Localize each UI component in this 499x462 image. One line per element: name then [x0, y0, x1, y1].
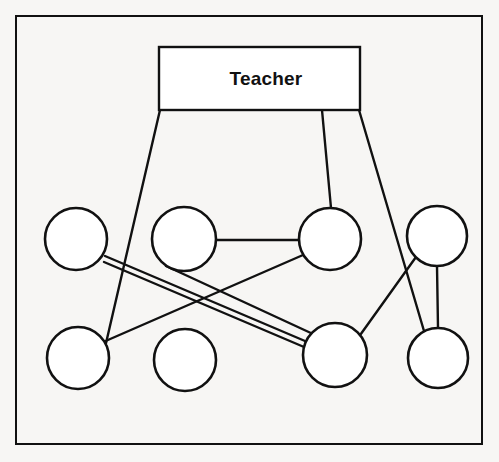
box-teacher[interactable]: [159, 47, 360, 110]
edge-t4-b3: [358, 257, 416, 338]
node-circle-b3[interactable]: [303, 323, 367, 387]
node-circle-b2[interactable]: [154, 329, 216, 391]
edge-t4-b4: [437, 266, 438, 328]
edge-t2-b3: [166, 266, 313, 334]
node-circle-t1[interactable]: [45, 208, 107, 270]
node-circle-b1[interactable]: [47, 327, 109, 389]
node-link-diagram: [0, 0, 499, 462]
node-circle-t3[interactable]: [299, 208, 361, 270]
node-circle-t4[interactable]: [407, 206, 467, 266]
diagram-canvas: Teacher: [0, 0, 499, 462]
box-layer: [159, 47, 360, 110]
node-circle-b4[interactable]: [408, 328, 468, 388]
edge-teacher-t3: [322, 110, 331, 208]
node-circle-t2[interactable]: [152, 207, 216, 271]
circle-layer: [45, 206, 468, 391]
edge-layer: [97, 110, 438, 382]
